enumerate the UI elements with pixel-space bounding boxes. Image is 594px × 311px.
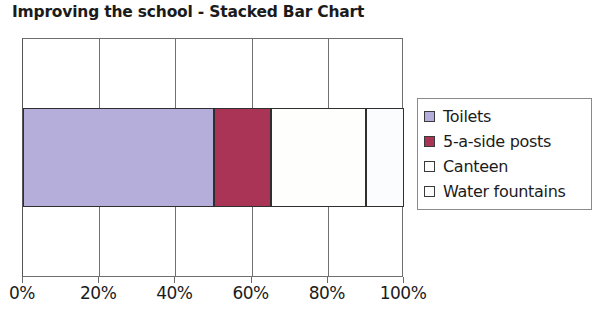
legend-swatch-icon	[424, 186, 435, 197]
legend-label: Toilets	[443, 107, 491, 126]
bar-segment-water-fountains	[366, 108, 404, 207]
legend-label: Canteen	[443, 157, 508, 176]
legend-item: Toilets	[424, 104, 587, 129]
legend-swatch-icon	[424, 161, 435, 172]
legend-swatch-icon	[424, 111, 435, 122]
bar-segment-canteen	[271, 108, 366, 207]
legend-item: 5-a-side posts	[424, 129, 587, 154]
legend: Toilets5-a-side postsCanteenWater founta…	[417, 98, 592, 210]
x-axis-tick-label: 40%	[156, 283, 192, 303]
legend-label: Water fountains	[443, 182, 566, 201]
x-axis-tick-label: 0%	[9, 283, 35, 303]
x-axis-tick-label: 100%	[380, 283, 427, 303]
page-title: Improving the school - Stacked Bar Chart	[12, 3, 364, 21]
legend-label: 5-a-side posts	[443, 132, 551, 151]
legend-swatch-icon	[424, 136, 435, 147]
x-axis-tick-label: 60%	[232, 283, 268, 303]
bar-segment-toilets	[23, 108, 214, 207]
x-axis-tick-label: 80%	[309, 283, 345, 303]
x-axis-tick-label: 20%	[80, 283, 116, 303]
legend-item: Canteen	[424, 154, 587, 179]
legend-item: Water fountains	[424, 179, 587, 204]
stacked-bar	[23, 108, 402, 207]
plot-area	[22, 38, 403, 277]
bar-segment-5-a-side-posts	[214, 108, 271, 207]
